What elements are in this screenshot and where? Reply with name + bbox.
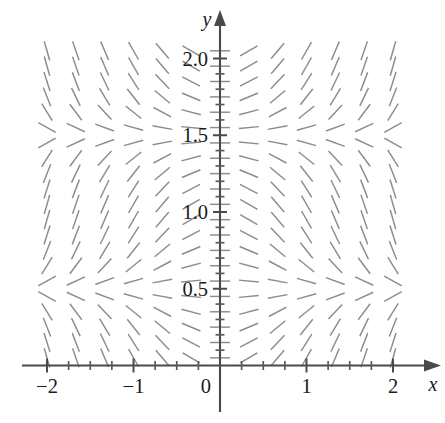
slope-segment [124, 278, 143, 283]
slope-segment [70, 258, 82, 274]
y-axis-tick-label: 2.0 [182, 48, 208, 70]
slope-segment [182, 170, 200, 178]
slope-segment [124, 294, 143, 299]
slope-segment [155, 74, 169, 89]
slope-segment [330, 319, 340, 336]
slope-segment [331, 42, 339, 60]
slope-segment [239, 110, 258, 115]
slope-segment [67, 123, 85, 131]
slope-segment [331, 210, 339, 228]
slope-segment [153, 279, 173, 283]
slope-segment [126, 259, 142, 272]
slope-segment [329, 105, 343, 120]
slope-segment [126, 152, 142, 165]
slope-segment [124, 125, 143, 130]
slope-segment [358, 150, 370, 166]
slope-segment [302, 42, 312, 59]
slope-segment [329, 258, 343, 273]
x-axis-tick-label: −1 [123, 375, 145, 397]
slope-segment [388, 104, 399, 121]
slope-segment [297, 294, 316, 299]
slope-segment [155, 90, 170, 103]
slope-segment [128, 334, 139, 351]
slope-segment [239, 156, 258, 161]
slope-segment [128, 73, 139, 90]
slope-segment [240, 338, 258, 347]
slope-segment [182, 338, 200, 347]
slope-segment [270, 90, 285, 103]
slope-segment [240, 46, 257, 56]
slope-segment [326, 278, 345, 285]
slope-segment [67, 292, 85, 300]
slope-segment [268, 279, 288, 283]
slope-segment [240, 61, 257, 71]
slope-segment [128, 227, 139, 244]
slope-segment [355, 292, 373, 300]
slope-segment [331, 195, 339, 213]
slope-segment [299, 152, 315, 165]
slope-segment [100, 72, 109, 90]
slope-segment [156, 197, 169, 212]
slope-segment [240, 170, 258, 178]
slope-segment [301, 181, 312, 198]
slope-segment [127, 89, 139, 105]
slope-segment [271, 197, 284, 212]
slope-segment [297, 125, 316, 130]
slope-segment [239, 127, 259, 129]
slope-segment [124, 140, 143, 145]
slope-segment [299, 106, 315, 119]
slope-segment [70, 104, 82, 120]
slope-segment [269, 307, 287, 316]
slope-segment [127, 319, 139, 335]
slope-segment [326, 139, 345, 146]
slope-segment [38, 292, 55, 302]
slope-segment [42, 257, 53, 274]
slope-field-plot: −2−11200.51.01.52.0xy [0, 0, 445, 423]
slope-segment [42, 150, 53, 167]
slope-segment [129, 196, 139, 213]
slope-segment [98, 304, 112, 319]
slope-segment [358, 104, 370, 120]
slope-segment [271, 43, 284, 58]
slope-segment [155, 321, 170, 334]
slope-segment [388, 257, 399, 274]
slope-segment [95, 139, 114, 146]
slope-segment [155, 182, 169, 197]
slope-segment [300, 319, 312, 335]
slope-segment [100, 88, 110, 105]
slope-segment [183, 353, 200, 363]
slope-segment [330, 165, 340, 182]
slope-segment [271, 228, 285, 243]
slope-segment [38, 138, 55, 148]
slope-segment [240, 323, 258, 331]
slope-segment [182, 110, 201, 115]
slope-segment [182, 156, 201, 161]
slope-segment [240, 247, 258, 255]
slope-segment [155, 167, 170, 180]
slope-segment [269, 107, 287, 116]
slope-segment [297, 140, 316, 145]
slope-segment [100, 319, 110, 336]
slope-segment [240, 230, 258, 239]
slope-segment [331, 72, 340, 90]
slope-field-figure: −2−11200.51.01.52.0xy [0, 0, 445, 423]
slope-segment [127, 166, 139, 182]
slope-segment [98, 105, 112, 120]
slope-segment [182, 309, 201, 314]
slope-segment [95, 293, 114, 300]
slope-segment [129, 42, 139, 59]
slope-segment [100, 180, 109, 198]
slope-segment [268, 295, 288, 299]
slope-segment [101, 195, 109, 213]
slope-segment [153, 141, 173, 145]
slope-segment [240, 77, 258, 86]
slope-segment [271, 335, 285, 350]
slope-segment [42, 303, 53, 320]
slope-segment [182, 77, 200, 86]
slope-segment [182, 184, 200, 193]
slope-segment [299, 259, 315, 272]
slope-segment [239, 309, 258, 314]
x-axis-tick-label: 2 [388, 375, 398, 397]
slope-segment [384, 292, 401, 302]
slope-segment [329, 151, 343, 166]
